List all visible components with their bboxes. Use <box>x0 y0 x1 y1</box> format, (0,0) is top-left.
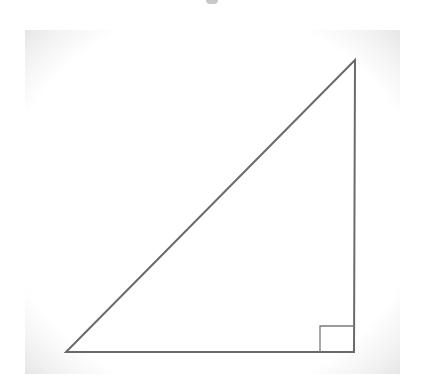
right-triangle-diagram <box>0 0 421 385</box>
right-angle-marker <box>320 326 354 352</box>
triangle-shape <box>66 60 355 352</box>
